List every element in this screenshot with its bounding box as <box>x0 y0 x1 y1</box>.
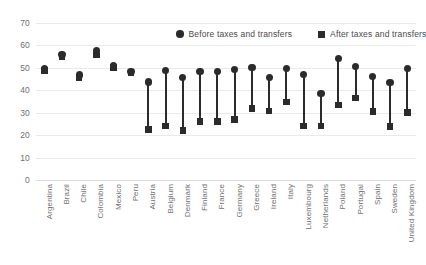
marker-before-taxes[interactable] <box>300 71 307 78</box>
marker-after-taxes[interactable] <box>249 105 256 112</box>
x-tick-label: Ireland <box>269 184 278 209</box>
x-tick-label: Peru <box>131 184 140 201</box>
marker-before-taxes[interactable] <box>335 55 342 62</box>
circle-marker-icon <box>176 30 184 38</box>
marker-after-taxes[interactable] <box>76 74 83 81</box>
x-tick-label: France <box>217 184 226 210</box>
y-tick-label-70: 70 <box>0 18 30 28</box>
connector-line <box>303 74 305 126</box>
y-tick-label-50: 50 <box>0 63 30 73</box>
marker-after-taxes[interactable] <box>162 123 169 130</box>
x-tick-label: Sweden <box>390 184 399 214</box>
x-tick-label: Mexico <box>114 184 123 210</box>
connector-line <box>320 94 322 126</box>
marker-after-taxes[interactable] <box>404 109 411 116</box>
connector-line <box>165 70 167 126</box>
y-axis-labels: 010203040506070 <box>0 23 30 180</box>
marker-after-taxes[interactable] <box>128 70 135 77</box>
x-tick-label: United Kingdom <box>407 184 416 242</box>
y-tick-label-60: 60 <box>0 40 30 50</box>
marker-after-taxes[interactable] <box>59 54 66 61</box>
marker-after-taxes[interactable] <box>370 108 377 115</box>
legend-label-after: After taxes and transfers <box>330 29 426 39</box>
marker-after-taxes[interactable] <box>318 123 325 130</box>
x-axis-labels: ArgentinaBrazilChileColombiaMexicoPeruAu… <box>36 182 416 265</box>
x-tick-label: Greece <box>252 184 261 211</box>
chart-legend: Before taxes and transfers After taxes a… <box>176 29 426 39</box>
x-tick-label: Germany <box>235 184 244 218</box>
connector-line <box>337 58 339 104</box>
marker-after-taxes[interactable] <box>93 52 100 59</box>
legend-item-before[interactable]: Before taxes and transfers <box>176 29 292 39</box>
x-tick-label: Denmark <box>183 184 192 217</box>
marker-after-taxes[interactable] <box>180 127 187 134</box>
marker-after-taxes[interactable] <box>197 118 204 125</box>
marker-before-taxes[interactable] <box>214 68 221 75</box>
marker-before-taxes[interactable] <box>283 65 290 72</box>
x-tick-label: Portugal <box>356 184 365 215</box>
connector-line <box>389 82 391 126</box>
series-layer <box>36 23 416 180</box>
connector-line <box>285 69 287 102</box>
legend-label-before: Before taxes and transfers <box>189 29 293 39</box>
marker-after-taxes[interactable] <box>335 102 342 109</box>
marker-before-taxes[interactable] <box>196 68 203 75</box>
x-tick-label: Colombia <box>96 184 105 219</box>
marker-before-taxes[interactable] <box>162 67 169 74</box>
marker-before-taxes[interactable] <box>404 65 411 72</box>
marker-after-taxes[interactable] <box>145 126 152 133</box>
marker-before-taxes[interactable] <box>386 79 393 86</box>
x-tick-label: Brazil <box>62 184 71 205</box>
connector-line <box>355 67 357 99</box>
marker-after-taxes[interactable] <box>214 118 221 125</box>
y-tick-label-10: 10 <box>0 153 30 163</box>
plot-area <box>36 23 416 180</box>
marker-after-taxes[interactable] <box>300 123 307 130</box>
x-tick-label: Spain <box>373 184 382 205</box>
x-tick-label: Finland <box>200 184 209 211</box>
connector-line <box>182 77 184 130</box>
y-tick-label-0: 0 <box>0 175 30 185</box>
connector-line <box>234 69 236 119</box>
y-tick-label-20: 20 <box>0 130 30 140</box>
marker-after-taxes[interactable] <box>387 123 394 130</box>
marker-after-taxes[interactable] <box>110 64 117 71</box>
y-tick-label-40: 40 <box>0 85 30 95</box>
gridline-0 <box>36 180 416 181</box>
x-tick-label: Poland <box>338 184 347 210</box>
connector-line <box>406 69 408 113</box>
x-tick-label: Argentina <box>45 184 54 219</box>
connector-line <box>199 71 201 121</box>
marker-before-taxes[interactable] <box>179 74 186 81</box>
marker-after-taxes[interactable] <box>283 99 290 106</box>
marker-before-taxes[interactable] <box>352 63 359 70</box>
x-tick-label: Luxembourg <box>304 184 313 229</box>
marker-before-taxes[interactable] <box>369 73 376 80</box>
marker-after-taxes[interactable] <box>231 116 238 123</box>
x-tick-label: Chile <box>79 184 88 203</box>
marker-after-taxes[interactable] <box>266 108 273 115</box>
legend-item-after[interactable]: After taxes and transfers <box>318 29 426 39</box>
connector-line <box>268 77 270 111</box>
connector-line <box>216 71 218 121</box>
x-tick-label: Netherlands <box>321 184 330 228</box>
marker-before-taxes[interactable] <box>145 78 152 85</box>
square-marker-icon <box>318 31 325 38</box>
marker-before-taxes[interactable] <box>231 66 238 73</box>
marker-before-taxes[interactable] <box>317 90 324 97</box>
marker-before-taxes[interactable] <box>248 64 255 71</box>
marker-after-taxes[interactable] <box>352 95 359 102</box>
x-tick-label: Austria <box>148 184 157 210</box>
connector-line <box>147 82 149 129</box>
marker-after-taxes[interactable] <box>41 67 48 74</box>
marker-before-taxes[interactable] <box>266 74 273 81</box>
connector-line <box>251 67 253 108</box>
y-tick-label-30: 30 <box>0 108 30 118</box>
x-tick-label: Belgium <box>166 184 175 214</box>
x-tick-label: Italy <box>286 184 295 199</box>
connector-line <box>372 77 374 112</box>
